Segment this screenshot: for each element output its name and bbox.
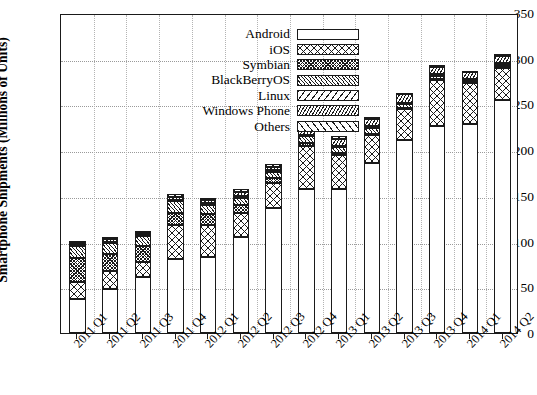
bar-segment-linux[interactable] <box>200 203 217 205</box>
bar-segment-windows-phone[interactable] <box>69 242 86 244</box>
bar-segment-linux[interactable] <box>69 244 86 246</box>
bar-segment-linux[interactable] <box>167 200 184 202</box>
bar-segment-blackberryos[interactable] <box>462 81 479 83</box>
bar-segment-ios[interactable] <box>494 68 511 100</box>
bar-segment-ios[interactable] <box>200 225 217 257</box>
bar-segment-ios[interactable] <box>429 80 446 127</box>
bar-segment-others[interactable] <box>233 189 250 192</box>
bar-segment-blackberryos[interactable] <box>200 205 217 214</box>
bar-segment-symbian[interactable] <box>200 214 217 225</box>
legend-item[interactable]: iOS <box>129 42 359 56</box>
bar-segment-symbian[interactable] <box>494 67 511 69</box>
bar-segment-others[interactable] <box>265 164 282 167</box>
bar-segment-symbian[interactable] <box>233 205 250 213</box>
bar[interactable] <box>494 13 511 333</box>
bar-segment-symbian[interactable] <box>462 82 479 84</box>
bar-segment-windows-phone[interactable] <box>494 56 511 63</box>
bar-segment-linux[interactable] <box>462 79 479 81</box>
bar-segment-android[interactable] <box>494 100 511 333</box>
bar-segment-windows-phone[interactable] <box>429 67 446 74</box>
bar-segment-others[interactable] <box>167 194 184 197</box>
bar-segment-others[interactable] <box>396 93 413 95</box>
bar-segment-symbian[interactable] <box>364 134 381 136</box>
bar-segment-linux[interactable] <box>396 103 413 105</box>
bar[interactable] <box>364 13 381 333</box>
bar-segment-ios[interactable] <box>167 225 184 259</box>
bar-segment-blackberryos[interactable] <box>135 236 152 246</box>
bar[interactable] <box>429 13 446 333</box>
bar-segment-linux[interactable] <box>429 74 446 76</box>
bar-segment-others[interactable] <box>102 237 119 239</box>
bar-segment-windows-phone[interactable] <box>167 197 184 200</box>
bar-segment-windows-phone[interactable] <box>135 232 152 234</box>
bar-segment-symbian[interactable] <box>265 178 282 183</box>
bar[interactable] <box>462 13 479 333</box>
bar-segment-ios[interactable] <box>462 83 479 123</box>
legend-item[interactable]: Android <box>129 27 359 41</box>
bar-segment-blackberryos[interactable] <box>265 172 282 178</box>
bar-segment-ios[interactable] <box>233 213 250 237</box>
bar-segment-blackberryos[interactable] <box>331 147 348 152</box>
bar-segment-ios[interactable] <box>396 109 413 140</box>
bar[interactable] <box>102 13 119 333</box>
bar-segment-blackberryos[interactable] <box>167 201 184 213</box>
bar-segment-blackberryos[interactable] <box>429 76 446 79</box>
bar-segment-symbian[interactable] <box>167 213 184 225</box>
bar-segment-android[interactable] <box>396 140 413 333</box>
bar-segment-symbian[interactable] <box>69 258 86 282</box>
bar-segment-others[interactable] <box>200 198 217 201</box>
bar-segment-blackberryos[interactable] <box>396 104 413 108</box>
legend-item[interactable]: Linux <box>129 89 359 103</box>
bar-segment-ios[interactable] <box>265 183 282 208</box>
bar-segment-android[interactable] <box>364 163 381 333</box>
bar-segment-windows-phone[interactable] <box>102 239 119 242</box>
bar-segment-linux[interactable] <box>135 234 152 236</box>
bar-segment-blackberryos[interactable] <box>298 136 315 142</box>
bar-segment-android[interactable] <box>462 124 479 333</box>
bar-segment-others[interactable] <box>364 117 381 119</box>
bar-segment-symbian[interactable] <box>298 143 315 146</box>
bar-segment-blackberryos[interactable] <box>494 65 511 67</box>
bar-segment-android[interactable] <box>298 189 315 333</box>
bar-segment-blackberryos[interactable] <box>102 243 119 254</box>
bar-segment-ios[interactable] <box>135 262 152 278</box>
bar[interactable] <box>396 13 413 333</box>
bar-segment-windows-phone[interactable] <box>364 119 381 126</box>
bar-segment-others[interactable] <box>429 65 446 67</box>
legend-item[interactable]: Windows Phone <box>129 104 359 118</box>
bar-segment-ios[interactable] <box>298 146 315 190</box>
bar-segment-linux[interactable] <box>233 196 250 198</box>
bar-segment-windows-phone[interactable] <box>331 139 348 145</box>
bar-segment-blackberryos[interactable] <box>233 198 250 205</box>
bar-segment-others[interactable] <box>494 54 511 56</box>
legend-item[interactable]: Others <box>129 119 359 133</box>
bar-segment-android[interactable] <box>429 126 446 333</box>
bar-segment-ios[interactable] <box>102 271 119 289</box>
bar-segment-blackberryos[interactable] <box>69 246 86 258</box>
bar-segment-others[interactable] <box>462 71 479 73</box>
bar-segment-symbian[interactable] <box>429 79 446 81</box>
bar-segment-windows-phone[interactable] <box>233 192 250 196</box>
bar-segment-ios[interactable] <box>331 155 348 190</box>
bar-segment-windows-phone[interactable] <box>396 94 413 102</box>
bar-segment-blackberryos[interactable] <box>364 128 381 133</box>
bar-segment-ios[interactable] <box>364 135 381 163</box>
bar-segment-linux[interactable] <box>494 63 511 65</box>
bar-segment-linux[interactable] <box>364 126 381 128</box>
bar-segment-windows-phone[interactable] <box>200 200 217 203</box>
legend-item[interactable]: Symbian <box>129 58 359 72</box>
bar-segment-symbian[interactable] <box>331 153 348 155</box>
bar-segment-android[interactable] <box>331 189 348 333</box>
bar[interactable] <box>69 13 86 333</box>
bar-segment-symbian[interactable] <box>135 246 152 262</box>
bar-segment-linux[interactable] <box>298 135 315 137</box>
bar-segment-symbian[interactable] <box>102 254 119 270</box>
bar-segment-others[interactable] <box>331 136 348 139</box>
bar-segment-symbian[interactable] <box>396 108 413 110</box>
bar-segment-windows-phone[interactable] <box>265 167 282 171</box>
bar-segment-others[interactable] <box>69 241 86 243</box>
bar-segment-windows-phone[interactable] <box>462 72 479 78</box>
bar-segment-linux[interactable] <box>331 146 348 148</box>
bar-segment-ios[interactable] <box>69 282 86 299</box>
legend-item[interactable]: BlackBerryOS <box>129 73 359 87</box>
